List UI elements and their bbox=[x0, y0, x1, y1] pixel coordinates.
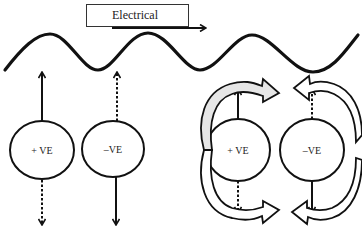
right-positive-label: + VE bbox=[227, 145, 248, 156]
electrical-label: Electrical bbox=[112, 8, 158, 23]
right-negative-label: –VE bbox=[303, 145, 321, 156]
left-positive-label: + VE bbox=[31, 145, 52, 156]
electrical-wave bbox=[5, 33, 358, 72]
left-negative-label: –VE bbox=[104, 144, 122, 155]
diagram-canvas bbox=[0, 0, 362, 230]
